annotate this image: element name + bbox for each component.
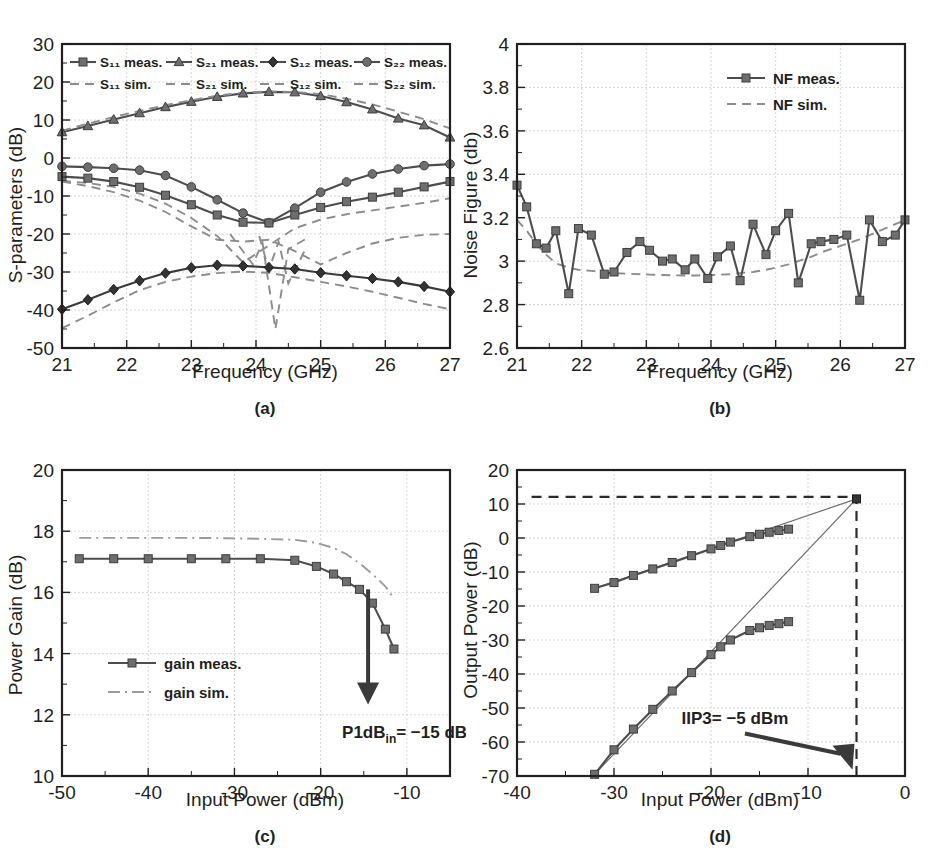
- p1db-annotation: P1dBin= −15 dBm: [342, 589, 466, 746]
- y-tick-label: -40: [27, 300, 54, 321]
- data-marker: [368, 193, 376, 201]
- y-tick-label: -70: [482, 766, 509, 787]
- data-marker: [83, 295, 92, 305]
- y-tick-label: -40: [482, 664, 509, 685]
- data-marker: [161, 191, 169, 199]
- data-marker: [629, 571, 637, 579]
- series-markers: [591, 618, 793, 779]
- legend-label: S₁₁ sim.: [100, 77, 151, 92]
- y-tick-label: 10: [488, 494, 509, 515]
- plot-area-d: [532, 495, 861, 778]
- data-marker: [187, 183, 196, 192]
- y-tick-label: 10: [33, 110, 54, 131]
- figure-container: 212223242526273020100-10-20-30-40-50 S₁₁…: [0, 0, 933, 856]
- data-marker: [636, 238, 644, 246]
- data-marker: [420, 161, 429, 170]
- axes-c: [62, 470, 450, 776]
- x-tick-label: -10: [393, 782, 420, 803]
- data-marker: [268, 57, 277, 67]
- data-marker: [668, 558, 676, 566]
- y-axis-title-d: Output Power (dB): [460, 541, 481, 698]
- x-axis-title-a: Frequency (GHz): [192, 361, 338, 382]
- legend-label: gain sim.: [164, 684, 229, 701]
- data-marker: [343, 578, 351, 586]
- tick-labels-b: 2122232425262743.83.63.43.232.82.6: [483, 34, 916, 375]
- data-marker: [552, 227, 560, 235]
- y-axis-title-a: S-parameters (dB): [5, 127, 26, 283]
- panel-iip3: -40-30-20-10020100-10-20-30-40-50-60-70 …: [455, 420, 921, 856]
- x-axis-title-d: Input Power (dBm): [641, 789, 799, 810]
- data-marker: [688, 669, 696, 677]
- data-marker: [623, 248, 631, 256]
- noise-figure-chart: 2122232425262743.83.63.43.232.82.6 NF me…: [455, 0, 921, 428]
- data-marker: [342, 178, 351, 187]
- y-tick-label: 20: [33, 72, 54, 93]
- data-marker: [128, 659, 136, 667]
- data-marker: [565, 290, 573, 298]
- data-marker: [532, 240, 540, 248]
- data-marker: [756, 530, 764, 538]
- data-marker: [830, 235, 838, 243]
- data-marker: [785, 618, 793, 626]
- data-marker: [726, 636, 734, 644]
- gridlines-b: [517, 44, 905, 348]
- panel-tag-c: (c): [255, 827, 276, 846]
- data-marker: [600, 270, 608, 278]
- x-tick-label: 27: [894, 354, 915, 375]
- data-marker: [312, 562, 320, 570]
- data-marker: [75, 555, 83, 563]
- data-marker: [523, 203, 531, 211]
- data-marker: [420, 183, 428, 191]
- y-tick-label: -10: [482, 562, 509, 583]
- data-marker: [290, 264, 299, 274]
- y-tick-label: -20: [27, 224, 54, 245]
- gridlines-c: [62, 470, 450, 776]
- plot-frame: [62, 470, 450, 776]
- legend-label: S₂₁ meas.: [196, 55, 259, 70]
- y-axis-title-b: Noise Figure (db): [460, 132, 481, 279]
- y-tick-label: 3.4: [483, 164, 510, 185]
- data-marker: [394, 188, 402, 196]
- tick-labels-c: -50-40-30-20-10201816141210: [33, 460, 421, 803]
- data-marker: [84, 163, 93, 172]
- legend-label: S₂₂ meas.: [384, 55, 447, 70]
- x-tick-label: -30: [600, 782, 627, 803]
- data-marker: [762, 251, 770, 259]
- y-tick-label: -20: [482, 596, 509, 617]
- data-marker: [807, 240, 815, 248]
- data-marker: [742, 74, 750, 82]
- data-marker: [591, 584, 599, 592]
- data-marker: [668, 255, 676, 263]
- y-tick-label: -50: [482, 698, 509, 719]
- x-tick-label: 26: [830, 354, 851, 375]
- panel-tag-b: (b): [709, 399, 731, 418]
- panel-noise-figure: 2122232425262743.83.63.43.232.82.6 NF me…: [455, 0, 921, 428]
- data-marker: [726, 242, 734, 250]
- data-marker: [110, 555, 118, 563]
- data-marker: [785, 209, 793, 217]
- x-tick-label: 21: [51, 354, 72, 375]
- panel-power-gain: -50-40-30-20-10201816141210 gain meas.ga…: [0, 420, 466, 856]
- y-tick-label: -10: [27, 186, 54, 207]
- data-marker: [213, 196, 222, 205]
- series-markers: [591, 525, 793, 592]
- data-marker: [239, 209, 248, 218]
- y-tick-label: 3.2: [483, 208, 509, 229]
- data-marker: [84, 174, 92, 182]
- data-marker: [390, 645, 398, 653]
- panel-s-parameters: 212223242526273020100-10-20-30-40-50 S₁₁…: [0, 0, 466, 428]
- y-tick-label: 0: [498, 528, 509, 549]
- data-marker: [785, 525, 793, 533]
- data-marker: [878, 238, 886, 246]
- y-tick-label: 12: [33, 705, 54, 726]
- data-marker: [649, 705, 657, 713]
- data-marker: [355, 585, 363, 593]
- y-tick-label: 2.8: [483, 295, 509, 316]
- series-line: [595, 622, 789, 775]
- x-tick-label: 0: [900, 782, 911, 803]
- data-marker: [291, 556, 299, 564]
- data-marker: [330, 570, 338, 578]
- legend-label: S₁₂ meas.: [290, 55, 353, 70]
- y-tick-label: 16: [33, 582, 54, 603]
- data-marker: [775, 620, 783, 628]
